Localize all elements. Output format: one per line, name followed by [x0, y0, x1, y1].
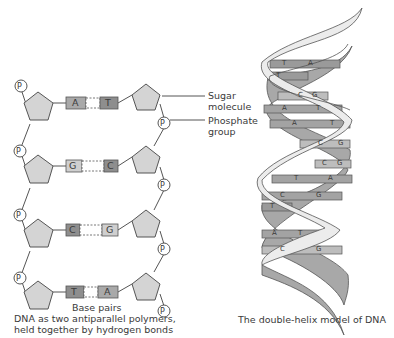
rung-letter: G [338, 138, 343, 149]
rung-letter: A [292, 118, 297, 129]
rung-letter: A [282, 103, 287, 114]
rung-letter: G [312, 90, 317, 101]
rung-letter: T [298, 228, 302, 239]
rung-letter: T [316, 103, 320, 114]
rung-letter: T [282, 58, 286, 69]
rung-letter: C [322, 158, 327, 169]
rung-letter: A [272, 228, 277, 239]
rung-letter: G [316, 244, 321, 255]
rung-letter: T [276, 70, 280, 81]
rung-letter: T [294, 173, 298, 184]
rung-letter: C [298, 90, 303, 101]
right-caption: The double-helix model of DNA [238, 314, 386, 326]
rung-letter: A [308, 58, 313, 69]
rung-letter: C [280, 244, 285, 255]
rung-letter: G [337, 158, 342, 169]
rung-letter: A [328, 173, 333, 184]
rung-letter: G [316, 190, 321, 201]
rung-letter: C [280, 190, 285, 201]
rung-letter: T [270, 201, 274, 212]
rung-letter: T [330, 118, 334, 129]
rung-letter: C [318, 138, 323, 149]
double-helix-diagram [0, 0, 394, 338]
